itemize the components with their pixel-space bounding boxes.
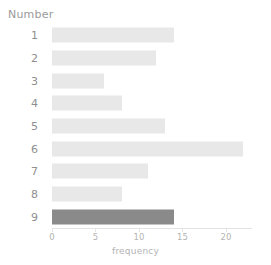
bar xyxy=(52,187,122,202)
bar-chart: Number 123456789 05101520 frequency xyxy=(0,0,271,265)
y-axis-tick-labels: 123456789 xyxy=(0,24,46,228)
x-axis-tick-label: 15 xyxy=(177,232,188,242)
bar xyxy=(52,209,174,224)
y-axis-tick-label: 4 xyxy=(31,97,38,110)
y-axis-title: Number xyxy=(8,8,53,21)
bar xyxy=(52,51,156,66)
bar xyxy=(52,28,174,43)
bar xyxy=(52,119,165,134)
x-axis-tick-label: 5 xyxy=(93,232,98,242)
bar xyxy=(52,73,104,88)
x-axis-tick-label: 10 xyxy=(134,232,145,242)
y-axis-tick-label: 7 xyxy=(31,165,38,178)
y-axis-tick-label: 3 xyxy=(31,74,38,87)
x-axis-tick-label: 0 xyxy=(49,232,54,242)
bar xyxy=(52,96,122,111)
bar xyxy=(52,141,243,156)
x-axis-tick-label: 20 xyxy=(220,232,231,242)
x-axis-title: frequency xyxy=(0,246,271,256)
x-axis-tick-labels: 05101520 xyxy=(52,229,252,245)
plot-area xyxy=(52,24,252,228)
y-axis-tick-label: 8 xyxy=(31,188,38,201)
bar xyxy=(52,164,148,179)
y-axis-tick-label: 9 xyxy=(31,210,38,223)
y-axis-tick-label: 2 xyxy=(31,52,38,65)
y-axis-tick-label: 1 xyxy=(31,29,38,42)
y-axis-tick-label: 5 xyxy=(31,120,38,133)
y-axis-tick-label: 6 xyxy=(31,142,38,155)
